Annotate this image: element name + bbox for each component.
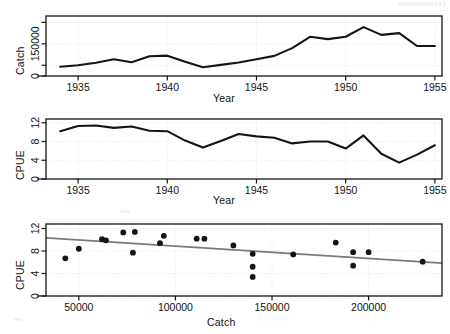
svg-text:8: 8 (29, 248, 41, 254)
svg-text:200000: 200000 (351, 301, 386, 313)
svg-text:4: 4 (29, 270, 41, 276)
svg-text:1955: 1955 (423, 184, 447, 196)
svg-text:50000: 50000 (64, 301, 93, 313)
svg-text:12: 12 (29, 223, 41, 235)
svg-text:4: 4 (29, 157, 41, 163)
panel1-y-axis-label: Catch (14, 47, 26, 75)
svg-text:1940: 1940 (156, 184, 180, 196)
panel3-x-axis-label: Catch (207, 316, 235, 328)
svg-text:150000: 150000 (254, 301, 289, 313)
svg-text:150000: 150000 (29, 26, 41, 61)
panel1-x-axis-label: Year (213, 92, 235, 104)
panel-catch-vs-year: 193519401945195019550150000 Catch Year (0, 0, 450, 108)
svg-text:1950: 1950 (334, 184, 358, 196)
page-corner-mark: 101 (434, 1, 447, 7)
svg-text:1935: 1935 (66, 81, 90, 93)
svg-text:1940: 1940 (156, 81, 180, 93)
svg-text:100000: 100000 (158, 301, 193, 313)
svg-text:1945: 1945 (245, 184, 269, 196)
svg-text:12: 12 (29, 117, 41, 129)
panel3-y-axis-label: CPUE (14, 260, 26, 290)
svg-text:1935: 1935 (66, 184, 90, 196)
svg-text:1955: 1955 (423, 81, 447, 93)
panel2-y-axis-label: CPUE (14, 150, 26, 180)
figure-panel-stack: 193519401945195019550150000 Catch Year 1… (0, 0, 450, 334)
panel-cpue-vs-year: 1935194019451950195504812 CPUE Year (0, 105, 450, 210)
panel2-x-axis-label: Year (213, 194, 235, 206)
svg-text:8: 8 (29, 138, 41, 144)
svg-text:1950: 1950 (334, 81, 358, 93)
svg-text:1945: 1945 (245, 81, 269, 93)
panel-cpue-vs-catch: 5000010000015000020000004812 CPUE Catch (0, 210, 450, 334)
